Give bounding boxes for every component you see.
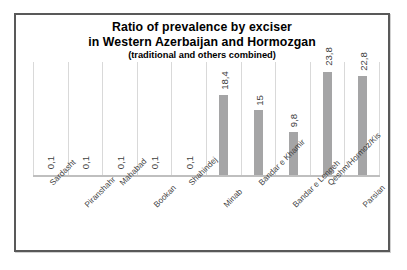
bar-value-label: 15 [253, 95, 264, 106]
x-label-slot: Parsian [345, 177, 380, 257]
bar-slot[interactable]: 23,8 [311, 62, 346, 175]
bar-value-label: 9,8 [288, 114, 299, 127]
bar[interactable] [219, 95, 228, 175]
x-label-slot: Shahindej [172, 177, 207, 257]
x-label-slot: Bandar e Lengeh [276, 177, 311, 257]
bar-value-label: 18,4 [218, 71, 229, 90]
x-label-slot: Piranshahr [68, 177, 103, 257]
x-label-slot: Bookan [137, 177, 172, 257]
bar-value-label: 23,8 [322, 48, 333, 67]
bar[interactable] [254, 110, 263, 175]
x-axis-labels: SardashtPiranshahrMahabadBookanShahindej… [33, 177, 380, 257]
bar-value-label: 0,1 [114, 156, 125, 169]
x-label-slot: Bandar e Khamir [241, 177, 276, 257]
bar[interactable] [323, 72, 332, 175]
bar-slot[interactable]: 0,1 [172, 62, 207, 175]
chart-frame: Ratio of prevalence by exciser in Wester… [14, 13, 390, 252]
bar-series: 0,10,10,10,10,118,4159,823,822,8 [33, 62, 380, 175]
bar-slot[interactable]: 0,1 [102, 62, 137, 175]
x-label-slot: Mahabad [102, 177, 137, 257]
chart-title-line-1: Ratio of prevalence by exciser [16, 20, 388, 35]
bar-value-label: 0,1 [80, 156, 91, 169]
x-label-slot: Minab [207, 177, 242, 257]
plot-area: 0,10,10,10,10,118,4159,823,822,8 [33, 62, 380, 175]
x-label-slot: Qeshm/Hormoz/Kis [311, 177, 346, 257]
x-axis-label: Parsian [361, 183, 387, 209]
bar-slot[interactable]: 15 [241, 62, 276, 175]
bar-value-label: 0,1 [45, 156, 56, 169]
bar-value-label: 0,1 [184, 156, 195, 169]
bar-slot[interactable]: 0,1 [33, 62, 68, 175]
bar-value-label: 0,1 [149, 156, 160, 169]
x-label-slot: Sardasht [33, 177, 68, 257]
bar-value-label: 22,8 [357, 52, 368, 71]
bar-slot[interactable]: 0,1 [68, 62, 103, 175]
